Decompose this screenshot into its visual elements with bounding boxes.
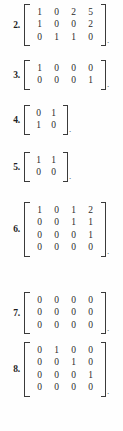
matrix-cell: 0 (31, 369, 48, 381)
matrix-cell: 0 (31, 31, 48, 43)
item-number: 7. (0, 308, 22, 318)
matrix-cell: 0 (82, 242, 99, 254)
matrix-row: 10 (31, 120, 61, 132)
matrix-cell: 1 (65, 217, 82, 229)
matrix-row: 1025 (31, 7, 99, 19)
matrix-row: 11 (31, 155, 61, 167)
matrix-cell: 0 (82, 31, 99, 43)
matrix-cell: 0 (48, 369, 65, 381)
matrix-row: 1012 (31, 205, 99, 217)
matrix-cell: 0 (65, 63, 82, 75)
item-number: 8. (0, 364, 22, 374)
matrix-cell: 0 (31, 319, 48, 331)
matrix-cell: 0 (65, 229, 82, 241)
left-bracket-icon (24, 4, 30, 46)
matrix-row: 0000 (31, 319, 99, 331)
matrix-cell: 0 (65, 295, 82, 307)
trailing-punctuation: . (68, 171, 71, 182)
right-bracket-icon (101, 202, 107, 257)
matrix-body: 000000000000 (24, 292, 106, 334)
trailing-punctuation: . (106, 246, 109, 257)
right-bracket-icon (63, 152, 69, 182)
matrix-cell: 1 (82, 229, 99, 241)
matrix-body: 0100001000010000 (24, 342, 106, 397)
matrix-cell: 2 (65, 7, 82, 19)
matrix: 10000001. (24, 60, 109, 90)
matrix-cell: 0 (31, 357, 48, 369)
matrix-row: 01 (31, 108, 61, 120)
matrix-grid: 102510020110 (31, 7, 99, 44)
matrix-cell: 0 (82, 307, 99, 319)
matrix-cell: 0 (31, 75, 48, 87)
matrix-row: 0010 (31, 357, 99, 369)
matrix-grid: 000000000000 (31, 295, 99, 332)
matrix-cell: 1 (31, 63, 48, 75)
matrix-cell: 0 (31, 242, 48, 254)
matrix-row: 00 (31, 167, 61, 179)
exercise-item-6: 6.1012001100010000. (0, 202, 123, 257)
matrix-cell: 1 (48, 345, 65, 357)
matrix-cell: 0 (31, 295, 48, 307)
matrix-cell: 0 (65, 319, 82, 331)
matrix-cell: 0 (48, 205, 65, 217)
matrix-cell: 0 (65, 382, 82, 394)
scanned-page: 2.102510020110.3.10000001.4.0110.5.1100.… (0, 0, 123, 431)
matrix-cell: 0 (48, 19, 65, 31)
matrix-body: 10000001 (24, 60, 106, 90)
matrix-cell: 1 (65, 357, 82, 369)
matrix: 1012001100010000. (24, 202, 109, 257)
matrix: 000000000000. (24, 292, 109, 334)
left-bracket-icon (24, 152, 30, 182)
trailing-punctuation: . (106, 35, 109, 46)
matrix-body: 1100 (24, 152, 68, 182)
matrix-cell: 2 (82, 19, 99, 31)
matrix-cell: 1 (48, 31, 65, 43)
matrix-cell: 0 (48, 229, 65, 241)
matrix-cell: 1 (31, 19, 48, 31)
matrix-cell: 1 (31, 120, 46, 132)
matrix-cell: 0 (82, 382, 99, 394)
matrix-cell: 1 (82, 75, 99, 87)
matrix-cell: 0 (65, 19, 82, 31)
matrix-cell: 0 (65, 369, 82, 381)
matrix-body: 1012001100010000 (24, 202, 106, 257)
item-number: 6. (0, 224, 22, 234)
matrix-row: 0000 (31, 242, 99, 254)
left-bracket-icon (24, 105, 30, 135)
matrix-grid: 0100001000010000 (31, 345, 99, 395)
matrix-cell: 0 (82, 63, 99, 75)
matrix-cell: 0 (48, 217, 65, 229)
matrix-cell: 0 (48, 295, 65, 307)
matrix-cell: 0 (46, 120, 61, 132)
matrix-cell: 0 (82, 345, 99, 357)
matrix-cell: 0 (82, 319, 99, 331)
matrix-cell: 1 (65, 31, 82, 43)
left-bracket-icon (24, 202, 30, 257)
matrix-cell: 0 (65, 345, 82, 357)
matrix-cell: 0 (31, 108, 46, 120)
right-bracket-icon (101, 342, 107, 397)
left-bracket-icon (24, 292, 30, 334)
matrix-cell: 1 (65, 205, 82, 217)
matrix-cell: 0 (31, 217, 48, 229)
matrix-cell: 0 (31, 382, 48, 394)
matrix-cell: 2 (82, 205, 99, 217)
matrix-cell: 0 (48, 357, 65, 369)
matrix-cell: 0 (65, 75, 82, 87)
matrix-cell: 0 (65, 242, 82, 254)
matrix-row: 0001 (31, 229, 99, 241)
trailing-punctuation: . (106, 79, 109, 90)
matrix-cell: 1 (31, 205, 48, 217)
trailing-punctuation: . (106, 386, 109, 397)
matrix-cell: 0 (48, 382, 65, 394)
matrix-row: 0000 (31, 295, 99, 307)
matrix-row: 0001 (31, 369, 99, 381)
matrix-cell: 0 (31, 167, 46, 179)
item-number: 5. (0, 162, 22, 172)
matrix-row: 1000 (31, 63, 99, 75)
trailing-punctuation: . (106, 323, 109, 334)
matrix-cell: 0 (31, 345, 48, 357)
matrix-cell: 0 (31, 307, 48, 319)
matrix-cell: 0 (48, 7, 65, 19)
matrix-body: 102510020110 (24, 4, 106, 46)
